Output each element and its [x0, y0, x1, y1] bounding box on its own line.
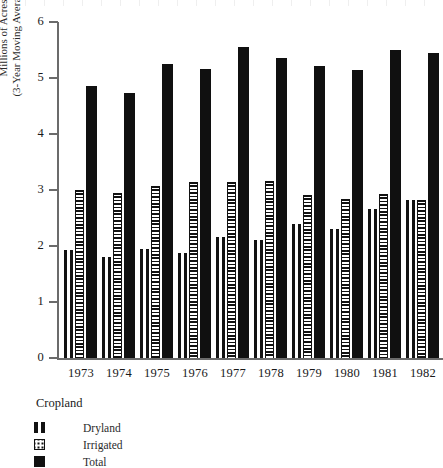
bar-total-1974 [124, 93, 135, 358]
bar-chart: Millions of Acres (3-Year Moving Average… [0, 0, 443, 468]
plot-area [58, 22, 443, 358]
scan-artifact [0, 0, 443, 6]
chart-legend: Cropland DrylandIrrigatedTotal [34, 396, 123, 468]
bar-total-1975 [162, 64, 173, 358]
bar-irrigated-1977 [227, 182, 236, 358]
bar-dryland-1980 [330, 229, 339, 358]
bar-group-1977 [216, 22, 250, 358]
bar-irrigated-1973 [75, 190, 84, 358]
vertical-stripe-swatch [34, 422, 45, 433]
bar-irrigated-1978 [265, 181, 274, 358]
bar-irrigated-1982 [417, 200, 426, 358]
bar-group-1976 [178, 22, 212, 358]
y-tick-6 [49, 21, 58, 23]
bar-dryland-1975 [140, 249, 149, 358]
dotted-swatch [34, 439, 45, 450]
bar-group-1978 [254, 22, 288, 358]
bar-irrigated-1974 [113, 193, 122, 358]
bar-total-1980 [352, 70, 363, 358]
bar-total-1979 [314, 66, 325, 358]
bar-group-1981 [368, 22, 402, 358]
bar-irrigated-1976 [189, 182, 198, 358]
y-tick-4 [49, 133, 58, 135]
bar-irrigated-1980 [341, 199, 350, 358]
y-tick-label-6: 6 [14, 14, 44, 29]
bar-group-1973 [64, 22, 98, 358]
y-tick-label-3: 3 [14, 182, 44, 197]
bar-total-1977 [238, 47, 249, 358]
legend-label-irrigated: Irrigated [83, 439, 123, 451]
bar-dryland-1973 [64, 250, 73, 358]
y-tick-label-1: 1 [14, 294, 44, 309]
solid-black-swatch [34, 456, 45, 467]
bar-dryland-1979 [292, 224, 301, 358]
bar-total-1982 [428, 53, 439, 358]
bar-dryland-1978 [254, 240, 263, 358]
bar-dryland-1974 [102, 257, 111, 358]
bar-group-1980 [330, 22, 364, 358]
y-tick-5 [49, 77, 58, 79]
bar-group-1979 [292, 22, 326, 358]
bar-group-1975 [140, 22, 174, 358]
legend-title: Cropland [34, 396, 123, 411]
bar-dryland-1981 [368, 209, 377, 358]
legend-item-dryland: Dryland [34, 420, 123, 435]
legend-item-irrigated: Irrigated [34, 437, 123, 452]
bar-group-1974 [102, 22, 136, 358]
y-tick-0 [49, 357, 58, 359]
y-axis-label-line1: Millions of Acres [0, 0, 10, 128]
x-axis-line [57, 358, 443, 360]
bar-total-1978 [276, 58, 287, 358]
bar-dryland-1982 [406, 200, 415, 358]
bar-irrigated-1981 [379, 194, 388, 358]
y-tick-label-2: 2 [14, 238, 44, 253]
bar-group-1982 [406, 22, 440, 358]
bar-irrigated-1979 [303, 195, 312, 358]
legend-items: DrylandIrrigatedTotal [34, 420, 123, 468]
legend-label-total: Total [83, 456, 106, 468]
legend-label-dryland: Dryland [83, 422, 121, 434]
bar-irrigated-1975 [151, 186, 160, 358]
bar-total-1981 [390, 50, 401, 358]
bar-dryland-1977 [216, 237, 225, 358]
bar-dryland-1976 [178, 253, 187, 358]
y-tick-label-0: 0 [14, 350, 44, 365]
y-tick-2 [49, 245, 58, 247]
y-tick-label-5: 5 [14, 70, 44, 85]
bar-total-1973 [86, 86, 97, 358]
y-tick-3 [49, 189, 58, 191]
y-tick-label-4: 4 [14, 126, 44, 141]
bar-total-1976 [200, 69, 211, 358]
legend-item-total: Total [34, 454, 123, 468]
x-axis-label-1982: 1982 [393, 366, 443, 381]
y-tick-1 [49, 301, 58, 303]
